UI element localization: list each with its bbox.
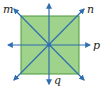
center-point <box>47 43 51 47</box>
label-m: m <box>3 4 13 15</box>
label-p: p <box>93 40 100 51</box>
label-q: q <box>54 75 61 86</box>
label-n: n <box>87 4 94 15</box>
symmetry-diagram: m n p q <box>0 0 104 93</box>
